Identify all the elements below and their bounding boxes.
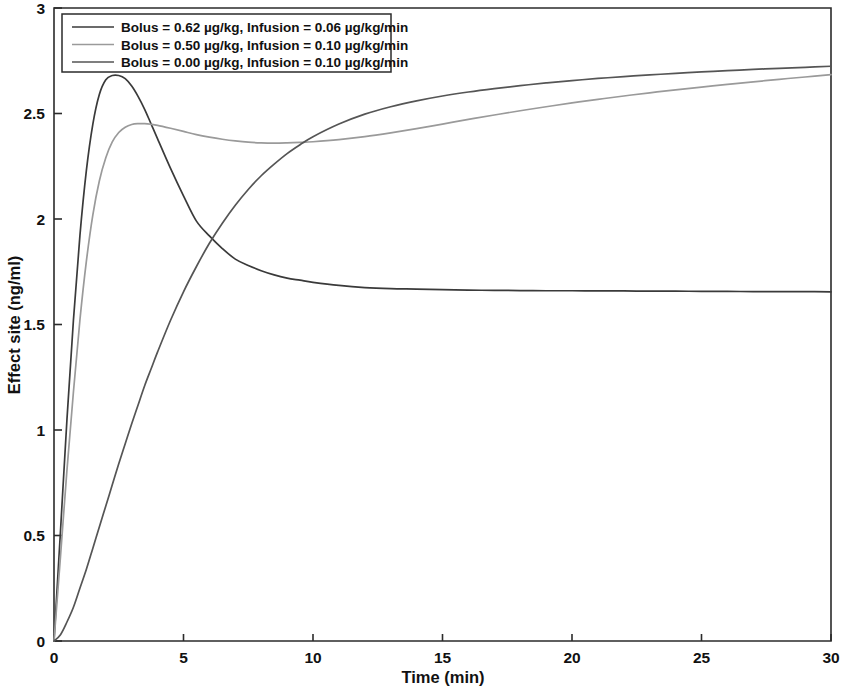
y-tick-label: 0 <box>36 633 45 650</box>
x-tick-label: 0 <box>50 649 59 666</box>
y-tick-label: 1.5 <box>23 316 45 333</box>
chart-figure: 051015202530 00.511.522.53 Time (min) Ef… <box>0 0 852 691</box>
series-line-2 <box>54 75 831 641</box>
y-axis-tick-labels: 00.511.522.53 <box>23 0 45 650</box>
series-line-1 <box>54 75 831 641</box>
x-tick-label: 25 <box>693 649 711 666</box>
plot-frame <box>54 8 831 641</box>
chart-legend: Bolus = 0.62 µg/kg, Infusion = 0.06 µg/k… <box>62 14 408 72</box>
legend-label-2: Bolus = 0.50 µg/kg, Infusion = 0.10 µg/k… <box>121 38 408 53</box>
legend-items: Bolus = 0.62 µg/kg, Infusion = 0.06 µg/k… <box>72 20 408 70</box>
line-chart: 051015202530 00.511.522.53 Time (min) Ef… <box>0 0 852 691</box>
data-series-group <box>54 66 831 641</box>
x-axis-tick-labels: 051015202530 <box>50 649 840 666</box>
x-tick-label: 10 <box>304 649 321 666</box>
y-tick-label: 2 <box>36 211 45 228</box>
x-axis-title: Time (min) <box>401 668 484 686</box>
y-tick-label: 0.5 <box>23 527 45 544</box>
axis-frame <box>54 8 831 641</box>
x-tick-label: 20 <box>563 649 580 666</box>
x-tick-label: 5 <box>179 649 188 666</box>
legend-label-3: Bolus = 0.00 µg/kg, Infusion = 0.10 µg/k… <box>121 55 408 70</box>
y-tick-label: 1 <box>36 422 45 439</box>
x-axis-ticks <box>54 634 831 641</box>
series-line-3 <box>54 66 831 641</box>
x-tick-label: 30 <box>822 649 839 666</box>
y-tick-label: 3 <box>36 0 45 17</box>
legend-label-1: Bolus = 0.62 µg/kg, Infusion = 0.06 µg/k… <box>121 20 408 35</box>
y-axis-title: Effect site (ng/ml) <box>5 256 23 394</box>
x-tick-label: 15 <box>434 649 452 666</box>
y-tick-label: 2.5 <box>23 105 45 122</box>
